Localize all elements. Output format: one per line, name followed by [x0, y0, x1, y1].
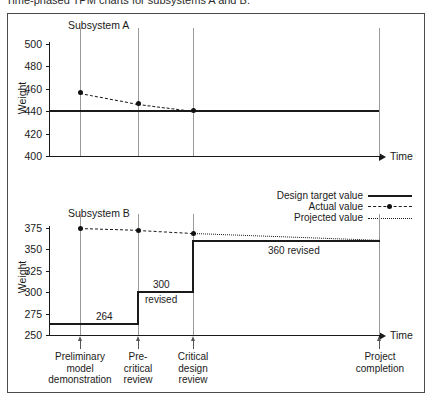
chart-b-ylabel-350: 350	[12, 244, 42, 254]
chart-b-target-step-300	[137, 291, 194, 293]
chart-a-ylabel-400: 400	[12, 151, 42, 161]
chart-b-annotation-264: 264	[96, 311, 113, 322]
chart-b-actual-segment-2	[138, 230, 193, 234]
xaxis-label-4-line2: completion	[342, 363, 418, 375]
chart-a-ytick-400	[46, 156, 50, 157]
xaxis-label-3-line1: Critical	[165, 351, 221, 363]
chart-b-y-axis	[49, 226, 50, 336]
chart-b-ylabel-300: 300	[12, 287, 42, 297]
chart-b-actual-point-3	[191, 231, 196, 236]
chart-b-ytick-325	[46, 271, 50, 272]
chart-a-ytick-480	[46, 66, 50, 67]
chart-a-ylabel-500: 500	[12, 39, 42, 49]
chart-b-ytick-275	[46, 314, 50, 315]
chart-b-target-riser-2	[192, 241, 194, 293]
chart-b-ylabel-375: 375	[12, 223, 42, 233]
chart-a-actual-segment-1	[80, 93, 138, 105]
chart-a-ytick-460	[46, 89, 50, 90]
chart-b-target-riser-1	[137, 292, 139, 325]
chart-a-design-target-line	[49, 110, 379, 112]
xtick-arrow-1	[78, 336, 82, 341]
chart-b-target-step-264	[49, 323, 139, 325]
chart-b-ylabel-250: 250	[12, 330, 42, 340]
chart-b-annotation-300-revised: revised	[145, 294, 177, 305]
figure-caption: Time-phased TPM charts for subsystems A …	[6, 0, 436, 10]
xaxis-label-3-line3: review	[165, 374, 221, 386]
xaxis-label-2-line1: Pre-	[112, 351, 164, 363]
chart-b-actual-point-2	[136, 228, 141, 233]
xaxis-label-3-line2: design	[165, 363, 221, 375]
chart-b-time-label: Time	[390, 329, 413, 341]
xtick-arrow-2	[136, 336, 140, 341]
chart-b-annotation-360-revised: 360 revised	[268, 245, 320, 256]
chart-a-actual-point-2	[136, 101, 141, 106]
xaxis-label-project-completion: Project completion	[342, 351, 418, 374]
chart-a-title: Subsystem A	[68, 19, 129, 31]
chart-b-actual-point-1	[78, 226, 83, 231]
xaxis-label-pre-critical-review: Pre- critical review	[112, 351, 164, 386]
chart-b-ytick-250	[46, 335, 50, 336]
chart-b-gridline-4	[379, 214, 380, 335]
chart-a-ylabel-440: 440	[12, 106, 42, 116]
chart-b-ylabel-325: 325	[12, 266, 42, 276]
chart-b-target-step-360	[192, 240, 380, 242]
chart-a-y-axis	[49, 42, 50, 157]
figure-frame: Subsystem A Weight Time 500 480 460 440 …	[7, 13, 425, 393]
chart-a-x-axis	[49, 156, 379, 157]
xaxis-label-2-line2: critical	[112, 363, 164, 375]
xaxis-label-critical-design-review: Critical design review	[165, 351, 221, 386]
chart-a-gridline-4	[379, 28, 380, 156]
chart-b-ytick-375	[46, 228, 50, 229]
chart-b-ytick-350	[46, 249, 50, 250]
chart-a-time-label: Time	[390, 150, 413, 162]
chart-b-x-axis	[49, 335, 379, 336]
xaxis-label-2-line3: review	[112, 374, 164, 386]
chart-a-ylabel-420: 420	[12, 129, 42, 139]
chart-a-gridline-2	[138, 28, 139, 156]
chart-b-gridline-1	[80, 214, 81, 335]
chart-a-ytick-500	[46, 44, 50, 45]
chart-a-actual-point-3	[191, 108, 196, 113]
chart-b-title: Subsystem B	[68, 207, 130, 219]
chart-b-ylabel-275: 275	[12, 309, 42, 319]
chart-b-annotation-300-value: 300	[153, 279, 170, 290]
chart-b-ytick-300	[46, 292, 50, 293]
chart-a-ylabel-460: 460	[12, 84, 42, 94]
xaxis-label-4-line1: Project	[342, 351, 418, 363]
chart-subsystem-b: Subsystem B Weight Time 375 350 325 300 …	[8, 194, 426, 354]
chart-a-ytick-420	[46, 134, 50, 135]
xtick-arrow-3	[191, 336, 195, 341]
chart-b-actual-segment-1	[80, 228, 138, 231]
chart-a-gridline-3	[193, 28, 194, 156]
xtick-arrow-4	[377, 336, 381, 341]
chart-a-ylabel-480: 480	[12, 61, 42, 71]
chart-a-time-arrow	[379, 153, 386, 161]
chart-a-actual-point-1	[78, 90, 83, 95]
chart-subsystem-a: Subsystem A Weight Time 500 480 460 440 …	[8, 14, 426, 179]
